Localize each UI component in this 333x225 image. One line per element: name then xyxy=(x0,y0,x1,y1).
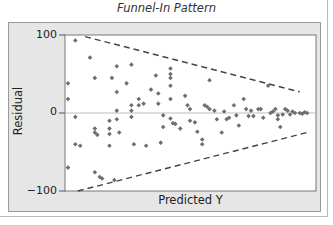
scatter-plot xyxy=(0,0,333,225)
